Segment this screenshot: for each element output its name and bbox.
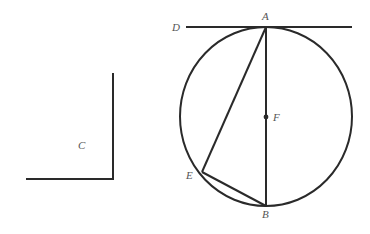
geometry-diagram: D A F E B C [0, 0, 370, 234]
center-point-f [264, 115, 269, 120]
label-c: C [78, 139, 86, 151]
chord-ae [202, 27, 266, 172]
label-e: E [185, 169, 193, 181]
chord-eb [202, 172, 266, 206]
label-a: A [261, 10, 269, 22]
label-d: D [171, 21, 180, 33]
label-b: B [262, 208, 269, 220]
label-f: F [272, 111, 280, 123]
angle-c [26, 73, 114, 180]
